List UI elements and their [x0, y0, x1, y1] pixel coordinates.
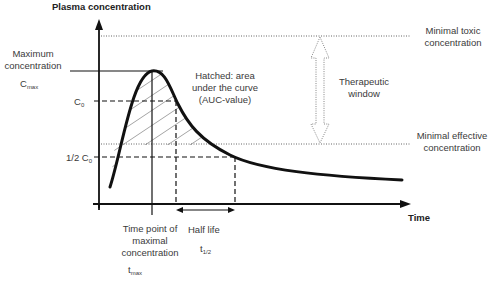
auc-label-line2: under the curve	[186, 82, 264, 94]
auc-hatching	[100, 35, 240, 205]
c0-symbol: C0	[74, 96, 84, 111]
tmax-label: Time point of maximal concentration	[108, 223, 192, 259]
cmax-label-line1: Maximum	[3, 48, 63, 60]
x-axis-label: Time	[408, 212, 430, 224]
min-toxic-line1: Minimal toxic	[418, 25, 488, 37]
cmax-label-line2: concentration	[3, 60, 63, 72]
tmax-label-line3: concentration	[108, 247, 192, 259]
min-toxic-line2: concentration	[418, 37, 488, 49]
x-axis-arrowhead	[400, 200, 411, 208]
min-effective-line1: Minimal effective	[413, 130, 491, 142]
tmax-symbol: tmax	[128, 264, 142, 279]
therapeutic-window-label: Therapeutic window	[334, 76, 394, 100]
tmax-label-line2: maximal	[108, 235, 192, 247]
cmax-label: Maximum concentration	[3, 48, 63, 72]
min-effective-line2: concentration	[413, 142, 491, 154]
auc-label-line1: Hatched: area	[186, 70, 264, 82]
auc-label: Hatched: area under the curve (AUC-value…	[186, 70, 264, 106]
y-axis-arrowhead	[95, 19, 103, 30]
therapeutic-label-line1: Therapeutic	[334, 76, 394, 88]
half-life-symbol: t1/2	[200, 243, 211, 258]
half-life-label: Half life	[188, 224, 220, 236]
half-c0-symbol: 1/2 C0	[66, 152, 92, 167]
min-effective-label: Minimal effective concentration	[413, 130, 491, 154]
min-toxic-label: Minimal toxic concentration	[418, 25, 488, 49]
auc-label-line3: (AUC-value)	[186, 94, 264, 106]
tmax-label-line1: Time point of	[108, 223, 192, 235]
therapeutic-window-arrow	[311, 37, 329, 143]
y-axis-label: Plasma concentration	[52, 1, 151, 13]
therapeutic-label-line2: window	[334, 88, 394, 100]
cmax-symbol: Cmax	[20, 78, 38, 93]
